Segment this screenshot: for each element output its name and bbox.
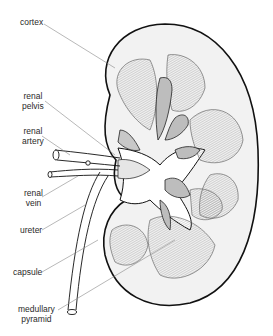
- label-text: pelvis: [22, 101, 44, 111]
- label-renal-artery: renal artery: [22, 126, 44, 146]
- label-text: renal: [22, 91, 44, 101]
- label-text: cortex: [20, 17, 43, 27]
- label-text: artery: [22, 136, 44, 146]
- label-renal-pelvis: renal pelvis: [22, 91, 44, 111]
- label-text: pyramid: [18, 314, 55, 324]
- ureter-tube: [68, 172, 108, 310]
- label-ureter: ureter: [20, 225, 42, 235]
- label-text: renal: [22, 126, 44, 136]
- label-text: renal: [24, 188, 43, 198]
- label-text: medullary: [18, 304, 55, 314]
- kidney-diagram: cortex renal pelvis renal artery renal v…: [0, 0, 273, 336]
- label-capsule: capsule: [13, 267, 42, 277]
- kidney-illustration: [0, 0, 273, 336]
- renal-vein-vessel: [50, 169, 118, 177]
- label-text: vein: [24, 198, 43, 208]
- label-cortex: cortex: [20, 17, 43, 27]
- label-text: capsule: [13, 267, 42, 277]
- label-text: ureter: [20, 225, 42, 235]
- label-renal-vein: renal vein: [24, 188, 43, 208]
- label-medullary-pyramid: medullary pyramid: [18, 304, 55, 324]
